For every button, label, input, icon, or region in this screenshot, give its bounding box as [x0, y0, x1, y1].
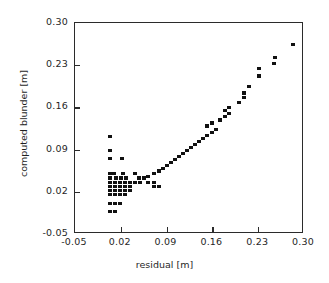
data-point: [123, 189, 127, 192]
data-point: [146, 181, 150, 184]
data-point: [210, 131, 214, 134]
data-point: [205, 134, 209, 137]
data-point: [291, 43, 295, 46]
y-axis-tick: [75, 65, 80, 66]
x-axis-tick: [167, 227, 168, 232]
scatter-plot-figure: -0.050.020.090.160.230.30 -0.050.020.090…: [0, 0, 329, 283]
x-tick-label: 0.16: [189, 236, 233, 247]
data-point: [119, 176, 123, 179]
y-tick-label: 0.09: [22, 143, 68, 154]
data-point: [108, 193, 112, 196]
data-point: [214, 128, 218, 131]
data-point: [197, 140, 201, 143]
data-point: [227, 106, 231, 109]
y-tick-label: -0.05: [22, 227, 68, 238]
data-point: [108, 135, 112, 138]
x-tick-label: 0.30: [281, 236, 325, 247]
data-point: [223, 109, 227, 112]
data-point: [227, 112, 231, 115]
data-point: [242, 91, 246, 94]
data-point: [113, 202, 117, 205]
x-tick-label: 0.23: [235, 236, 279, 247]
data-point: [118, 185, 122, 188]
data-point: [257, 74, 261, 77]
data-point: [114, 176, 118, 179]
data-point: [193, 143, 197, 146]
data-point: [108, 210, 112, 213]
data-point: [113, 189, 117, 192]
x-tick-label: 0.09: [144, 236, 188, 247]
data-point: [118, 202, 122, 205]
data-point: [152, 185, 156, 188]
x-axis-title: residual [m]: [0, 259, 329, 270]
data-point-layer: [75, 23, 302, 232]
data-point: [157, 185, 161, 188]
data-point: [108, 149, 112, 152]
data-point: [201, 137, 205, 140]
data-point: [161, 167, 165, 170]
data-point: [185, 149, 189, 152]
data-point: [108, 176, 112, 179]
data-point: [152, 172, 156, 175]
x-axis-tick: [212, 227, 213, 232]
y-tick-label: 0.23: [22, 58, 68, 69]
data-point: [118, 181, 122, 184]
data-point: [128, 181, 132, 184]
data-point: [189, 146, 193, 149]
data-point: [146, 175, 150, 178]
data-point: [133, 172, 137, 175]
data-point: [181, 152, 185, 155]
plot-frame: [74, 22, 303, 233]
data-point: [123, 193, 127, 196]
x-tick-label: 0.02: [98, 236, 142, 247]
y-axis-tick: [75, 150, 80, 151]
data-point: [133, 181, 137, 184]
data-point: [205, 124, 209, 127]
data-point: [137, 176, 141, 179]
x-axis-tick: [121, 227, 122, 232]
data-point: [257, 67, 261, 70]
data-point: [273, 56, 277, 59]
x-axis-tick: [258, 227, 259, 232]
data-point: [247, 85, 251, 88]
data-point: [128, 189, 132, 192]
data-point: [210, 121, 214, 124]
y-tick-label: 0.16: [22, 100, 68, 111]
data-point: [177, 155, 181, 158]
data-point: [237, 101, 241, 104]
data-point: [108, 189, 112, 192]
data-point: [113, 181, 117, 184]
data-point: [113, 185, 117, 188]
data-point: [123, 185, 127, 188]
data-point: [118, 189, 122, 192]
data-point: [128, 185, 132, 188]
data-point: [113, 210, 117, 213]
data-point: [108, 202, 112, 205]
data-point: [242, 96, 246, 99]
data-point: [112, 172, 116, 175]
data-point: [108, 157, 112, 160]
data-point: [138, 181, 142, 184]
y-tick-label: 0.02: [22, 185, 68, 196]
data-point: [108, 185, 112, 188]
data-point: [218, 118, 222, 121]
data-point: [272, 62, 276, 65]
data-point: [165, 164, 169, 167]
y-tick-label: 0.30: [22, 16, 68, 27]
data-point: [173, 158, 177, 161]
data-point: [118, 193, 122, 196]
data-point: [121, 172, 125, 175]
y-axis-tick: [75, 107, 80, 108]
y-axis-tick: [75, 192, 80, 193]
data-point: [124, 176, 128, 179]
data-point: [123, 181, 127, 184]
data-point: [169, 161, 173, 164]
y-axis-title: computed blunder [m]: [18, 49, 29, 199]
data-point: [223, 115, 227, 118]
data-point: [108, 181, 112, 184]
data-point: [120, 157, 124, 160]
data-point: [152, 181, 156, 184]
data-point: [113, 193, 117, 196]
